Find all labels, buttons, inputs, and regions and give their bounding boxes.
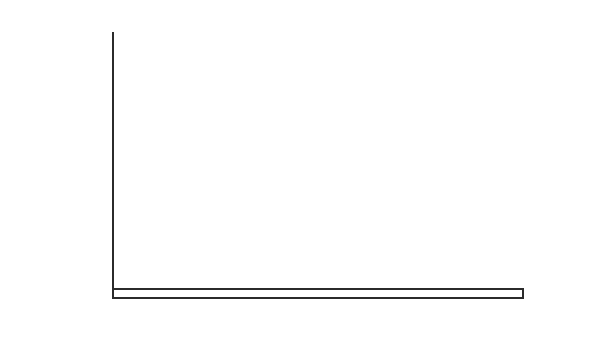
x-axis-outer-line — [112, 297, 524, 299]
plot-area — [112, 32, 524, 290]
chart-figure — [0, 0, 594, 355]
series-lines — [112, 32, 524, 290]
y-axis-title — [7, 0, 63, 189]
